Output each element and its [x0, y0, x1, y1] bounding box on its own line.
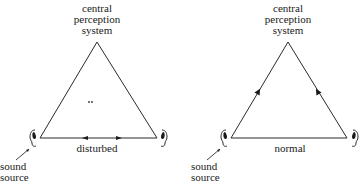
apex-label: central perception system [243, 3, 333, 36]
bottom-label-normal: normal [270, 143, 310, 154]
arrow-right-icon [82, 136, 88, 140]
apex-label-line: system [52, 25, 142, 36]
source-label-line: source [0, 172, 29, 183]
normal-triangle [231, 42, 347, 138]
arrow-left-icon [116, 136, 122, 140]
arrow-up-left-edge-icon [254, 87, 262, 95]
sound-source-label: sound source [0, 161, 29, 183]
bottom-label-disturbed: disturbed [74, 143, 120, 154]
left-ear-icon [30, 130, 36, 146]
disturbed-triangle [40, 42, 157, 138]
source-label-line: source [191, 172, 220, 183]
apex-label-line: system [243, 25, 333, 36]
left-ear-icon [221, 130, 227, 146]
sound-source-label: sound source [191, 161, 220, 183]
right-ear-icon [161, 130, 167, 146]
right-ear-icon [352, 130, 358, 146]
center-dot-icon [91, 101, 93, 103]
apex-label: central perception system [52, 3, 142, 36]
center-dot-icon [88, 101, 90, 103]
